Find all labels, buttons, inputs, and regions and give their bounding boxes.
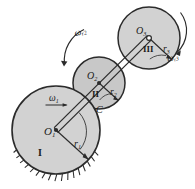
contact-point-label: C [96,105,103,115]
omega-1-label: ω1 [49,94,59,105]
gear-1-roman-label: I [38,148,42,158]
pivot-o3 [147,36,152,41]
gear-2-radius-label: r2 [110,88,117,99]
gear-2-center-label: O2 [87,71,97,82]
gear-1-radius-label: r1 [74,139,81,150]
pivot-o2 [97,81,101,85]
gear-3-roman-label: III [143,45,154,54]
gear-3-center-label: O3 [136,26,146,37]
gear-1-center-label: O1 [44,126,55,139]
figure-canvas: O1 I r1 O2 II r2 O3 III r3 ω1 ωr2 ωr3 C [0,0,195,189]
gear-2-roman-label: II [92,90,99,99]
